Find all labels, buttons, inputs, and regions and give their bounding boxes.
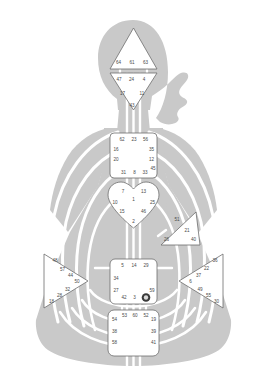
gate-label-8: 8 — [133, 170, 136, 175]
gate-label-5: 5 — [121, 263, 124, 268]
gate-label-30: 30 — [214, 299, 220, 304]
gate-17[interactable]: 17 — [120, 91, 126, 96]
gate-label-3: 3 — [133, 295, 136, 300]
gate-34[interactable]: 34 — [113, 276, 119, 281]
gate-8[interactable]: 8 — [133, 170, 136, 175]
gate-label-29: 29 — [143, 263, 149, 268]
gate-label-26: 26 — [164, 237, 170, 242]
gate-12[interactable]: 12 — [149, 157, 155, 162]
gate-45[interactable]: 45 — [150, 166, 156, 171]
gate-label-21: 21 — [184, 228, 190, 233]
gate-47[interactable]: 47 — [116, 77, 122, 82]
gate-37[interactable]: 37 — [196, 273, 202, 278]
gate-64[interactable]: 64 — [116, 60, 122, 65]
gate-label-46: 46 — [141, 209, 147, 214]
gate-54[interactable]: 54 — [112, 317, 118, 322]
gate-19[interactable]: 19 — [151, 317, 157, 322]
gate-50[interactable]: 50 — [74, 279, 80, 284]
gate-63[interactable]: 63 — [143, 60, 149, 65]
gate-31[interactable]: 31 — [121, 170, 127, 175]
gate-59[interactable]: 59 — [149, 288, 155, 293]
gate-label-1: 1 — [132, 197, 135, 202]
gate-32[interactable]: 32 — [65, 287, 71, 292]
gate-label-2: 2 — [132, 219, 135, 224]
gate-label-54: 54 — [112, 317, 118, 322]
gate-44[interactable]: 44 — [68, 273, 74, 278]
gate-36[interactable]: 36 — [212, 258, 218, 263]
gate-38[interactable]: 38 — [112, 329, 118, 334]
gate-label-24: 24 — [129, 77, 135, 82]
gate-5[interactable]: 5 — [121, 263, 124, 268]
gate-label-49: 49 — [197, 287, 203, 292]
gate-53[interactable]: 53 — [122, 313, 128, 318]
gate-label-60: 60 — [132, 313, 138, 318]
gate-46[interactable]: 46 — [141, 209, 147, 214]
gate-label-22: 22 — [204, 266, 210, 271]
gate-28[interactable]: 28 — [57, 293, 63, 298]
gate-label-64: 64 — [116, 60, 122, 65]
gate-23[interactable]: 23 — [131, 137, 137, 142]
gate-label-58: 58 — [112, 340, 118, 345]
gate-27[interactable]: 27 — [113, 288, 119, 293]
gate-40[interactable]: 40 — [191, 237, 197, 242]
gate-21[interactable]: 21 — [184, 228, 190, 233]
gate-label-17: 17 — [120, 91, 126, 96]
gate-35[interactable]: 35 — [149, 147, 155, 152]
gate-label-40: 40 — [191, 237, 197, 242]
gate-1[interactable]: 1 — [132, 197, 135, 202]
gate-6[interactable]: 6 — [189, 279, 192, 284]
gate-7[interactable]: 7 — [122, 189, 125, 194]
gate-label-45: 45 — [150, 166, 156, 171]
gate-15[interactable]: 15 — [119, 209, 125, 214]
gate-label-6: 6 — [189, 279, 192, 284]
gate-60[interactable]: 60 — [132, 313, 138, 318]
gate-29[interactable]: 29 — [143, 263, 149, 268]
gate-label-35: 35 — [149, 147, 155, 152]
gate-39[interactable]: 39 — [151, 329, 157, 334]
gate-51[interactable]: 51 — [174, 217, 180, 222]
gate-3[interactable]: 3 — [133, 295, 136, 300]
gate-22[interactable]: 22 — [204, 266, 210, 271]
gate-43[interactable]: 43 — [129, 103, 135, 108]
gate-26[interactable]: 26 — [164, 237, 170, 242]
bodygraph-chart: 6461634724417114362235616352012453183371… — [0, 0, 267, 378]
gate-62[interactable]: 62 — [119, 137, 125, 142]
gate-33[interactable]: 33 — [142, 170, 148, 175]
gate-label-50: 50 — [74, 279, 80, 284]
gate-57[interactable]: 57 — [60, 267, 66, 272]
gate-label-42: 42 — [121, 295, 127, 300]
gate-52[interactable]: 52 — [143, 313, 149, 318]
gate-9[interactable] — [142, 293, 151, 302]
gate-label-4: 4 — [143, 77, 146, 82]
gate-48[interactable]: 48 — [52, 258, 58, 263]
gate-20[interactable]: 20 — [113, 157, 119, 162]
gate-label-20: 20 — [113, 157, 119, 162]
gate-label-19: 19 — [151, 317, 157, 322]
gate-61[interactable]: 61 — [129, 60, 135, 65]
gate-41[interactable]: 41 — [151, 340, 157, 345]
gate-2[interactable]: 2 — [132, 219, 135, 224]
gate-label-61: 61 — [129, 60, 135, 65]
gate-label-41: 41 — [151, 340, 157, 345]
gate-label-44: 44 — [68, 273, 74, 278]
gate-42[interactable]: 42 — [121, 295, 127, 300]
gate-16[interactable]: 16 — [113, 147, 119, 152]
gate-14[interactable]: 14 — [131, 263, 137, 268]
gate-24[interactable]: 24 — [129, 77, 135, 82]
gate-56[interactable]: 56 — [143, 137, 149, 142]
gate-18[interactable]: 18 — [49, 299, 55, 304]
gate-49[interactable]: 49 — [197, 287, 203, 292]
gate-label-59: 59 — [149, 288, 155, 293]
gate-4[interactable]: 4 — [143, 77, 146, 82]
gate-30[interactable]: 30 — [214, 299, 220, 304]
gate-label-14: 14 — [131, 263, 137, 268]
gate-10[interactable]: 10 — [112, 200, 118, 205]
gate-13[interactable]: 13 — [141, 189, 147, 194]
gate-25[interactable]: 25 — [150, 200, 156, 205]
gate-label-27: 27 — [113, 288, 119, 293]
gate-11[interactable]: 11 — [140, 91, 145, 96]
gate-55[interactable]: 55 — [206, 293, 212, 298]
gate-label-57: 57 — [60, 267, 66, 272]
gate-58[interactable]: 58 — [112, 340, 118, 345]
gate-label-33: 33 — [142, 170, 148, 175]
